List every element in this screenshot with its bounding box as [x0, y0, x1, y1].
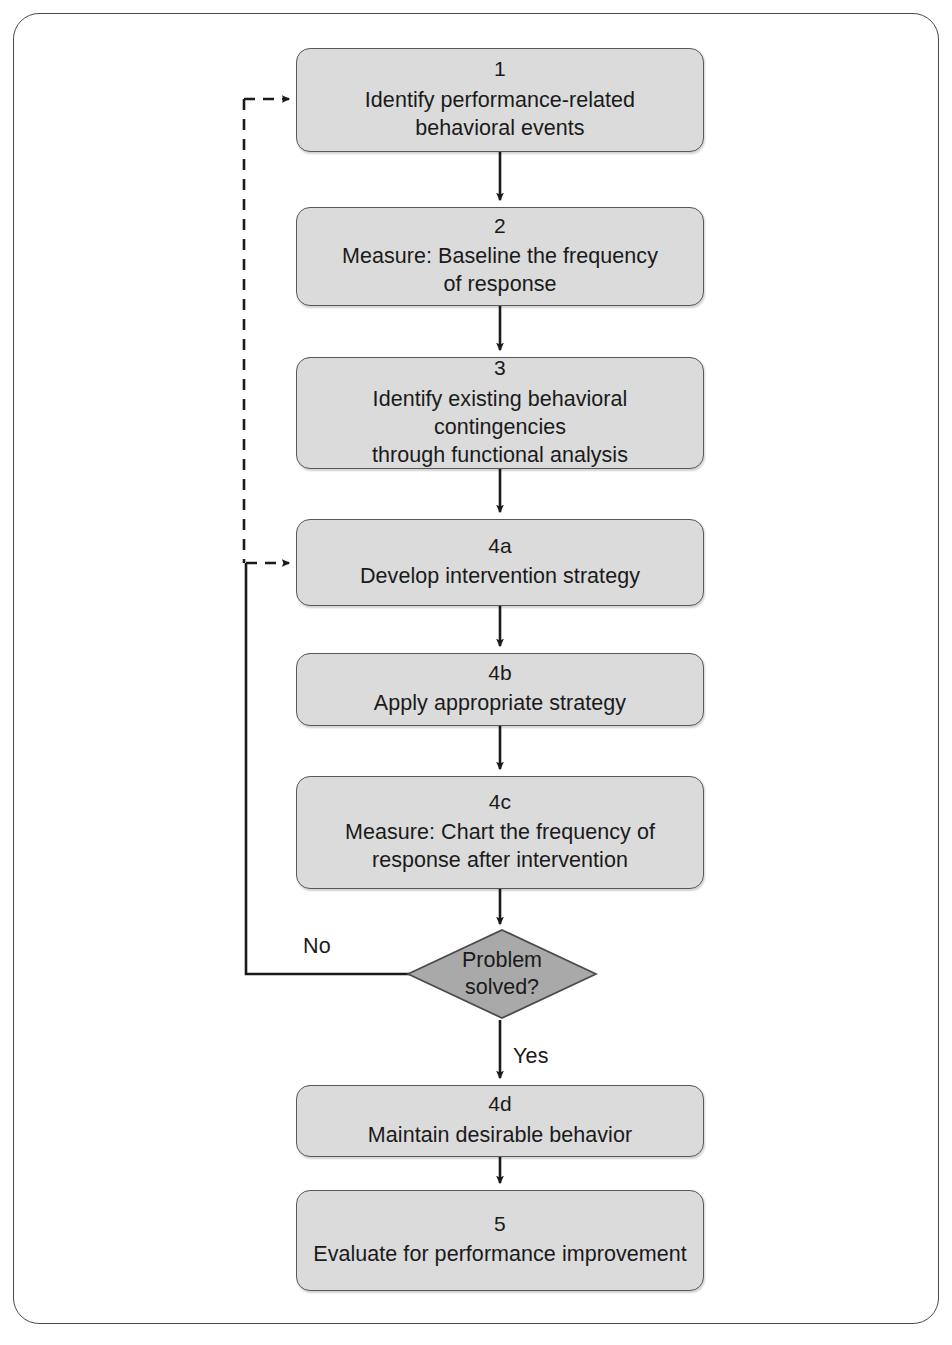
node-1-text: Identify performance-related behavioral … [355, 87, 645, 143]
node-5-number: 5 [494, 1212, 506, 1237]
node-2-number: 2 [494, 214, 506, 239]
node-4c-number: 4c [489, 790, 511, 815]
node-4a-text: Develop intervention strategy [350, 563, 650, 591]
node-4c-text: Measure: Chart the frequency of response… [335, 819, 665, 875]
diagram-canvas: 1 Identify performance-related behaviora… [0, 0, 952, 1345]
decision-node-problem-solved[interactable]: Problem solved? [406, 928, 598, 1020]
process-node-4b[interactable]: 4b Apply appropriate strategy [296, 653, 704, 726]
process-node-5[interactable]: 5 Evaluate for performance improvement [296, 1190, 704, 1291]
node-4a-number: 4a [488, 534, 512, 559]
process-node-4a[interactable]: 4a Develop intervention strategy [296, 519, 704, 606]
node-3-text: Identify existing behavioral contingenci… [297, 386, 703, 470]
node-4b-text: Apply appropriate strategy [364, 690, 636, 718]
node-4d-text: Maintain desirable behavior [358, 1122, 642, 1150]
process-node-3[interactable]: 3 Identify existing behavioral contingen… [296, 357, 704, 469]
node-2-text: Measure: Baseline the frequency of respo… [332, 243, 668, 299]
node-5-text: Evaluate for performance improvement [303, 1241, 696, 1269]
decision-label: Problem solved? [406, 928, 598, 1020]
node-3-number: 3 [494, 356, 506, 381]
process-node-4c[interactable]: 4c Measure: Chart the frequency of respo… [296, 776, 704, 889]
node-4b-number: 4b [488, 661, 512, 686]
node-1-number: 1 [494, 57, 506, 82]
process-node-4d[interactable]: 4d Maintain desirable behavior [296, 1085, 704, 1157]
edge-label-no: No [303, 934, 331, 959]
node-4d-number: 4d [488, 1092, 512, 1117]
process-node-1[interactable]: 1 Identify performance-related behaviora… [296, 48, 704, 152]
edge-label-yes: Yes [513, 1044, 549, 1069]
process-node-2[interactable]: 2 Measure: Baseline the frequency of res… [296, 207, 704, 306]
